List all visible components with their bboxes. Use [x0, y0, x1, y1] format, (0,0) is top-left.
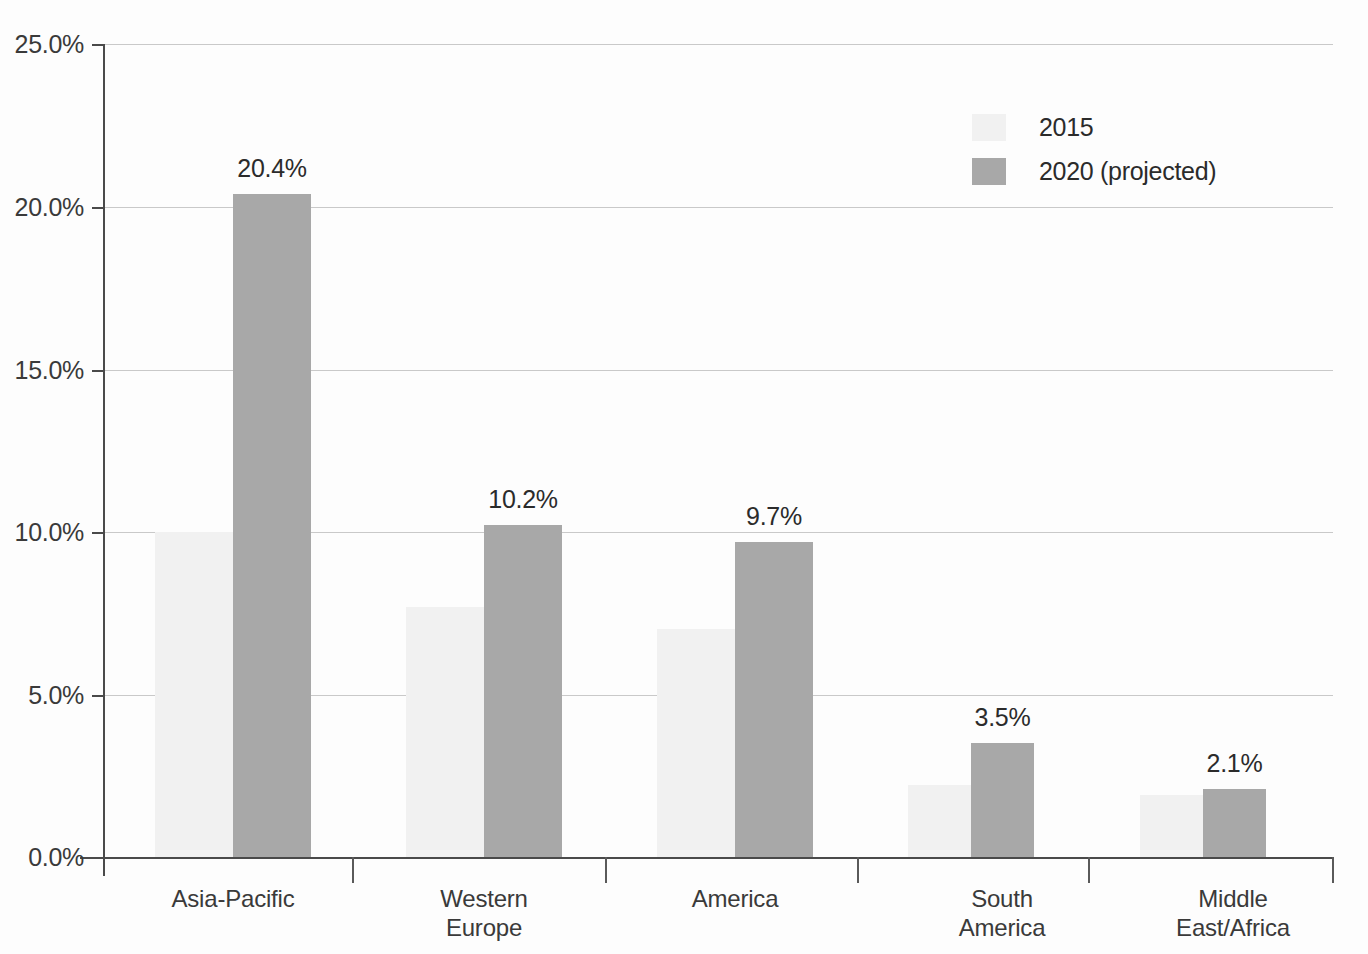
y-tick-0 [92, 857, 103, 859]
x-tick-separator-4 [1088, 857, 1090, 883]
x-axis-baseline [80, 857, 1333, 859]
y-axis-label-0: 0.0% [28, 843, 84, 872]
y-tick-10 [92, 532, 103, 534]
x-axis-category-label-america: America [692, 884, 779, 913]
x-axis-category-label-middle-east-africa: Middle East/Africa [1176, 884, 1290, 943]
bar-value-label-western-europe: 10.2% [488, 485, 557, 514]
x-axis-category-label-western-europe: Western Europe [440, 884, 528, 943]
y-axis-label-5: 5.0% [28, 681, 84, 710]
y-axis-label-15: 15.0% [15, 356, 84, 385]
bar-2020-projected--asia-pacific [233, 194, 311, 857]
bar-2015-south-america [908, 785, 971, 857]
x-axis-category-label-asia-pacific: Asia-Pacific [172, 884, 295, 913]
bar-2020-projected--america [735, 542, 813, 857]
y-axis-line [103, 44, 105, 876]
x-tick-separator-2 [605, 857, 607, 883]
bar-value-label-asia-pacific: 20.4% [237, 154, 306, 183]
legend-item-2015: 2015 [972, 105, 1216, 149]
legend-item-2020: 2020 (projected) [972, 149, 1216, 193]
legend-label-2020: 2020 (projected) [1039, 157, 1216, 186]
y-axis-label-25: 25.0% [15, 30, 84, 59]
y-tick-15 [92, 370, 103, 372]
legend-swatch-icon-2015 [972, 114, 1006, 141]
bar-2020-projected--western-europe [484, 525, 562, 857]
bar-value-label-middle-east-africa: 2.1% [1207, 749, 1263, 778]
y-tick-20 [92, 207, 103, 209]
y-axis-label-20: 20.0% [15, 193, 84, 222]
y-tick-25 [92, 44, 103, 46]
x-axis-category-label-south-america: South America [959, 884, 1046, 943]
bar-value-label-south-america: 3.5% [975, 703, 1031, 732]
bar-2015-middle-east-africa [1140, 795, 1203, 857]
y-tick-5 [92, 695, 103, 697]
legend-swatch-icon-2020 [972, 158, 1006, 185]
bar-2020-projected--south-america [971, 743, 1034, 857]
bar-value-label-america: 9.7% [746, 502, 802, 531]
gridline-25 [103, 44, 1333, 45]
x-tick-separator-3 [857, 857, 859, 883]
legend-label-2015: 2015 [1039, 113, 1093, 142]
y-axis-label-10: 10.0% [15, 518, 84, 547]
bar-chart: 25.0% 20.0% 15.0% 10.0% 5.0% 0.0% 20.4%1… [0, 0, 1368, 954]
bar-2015-asia-pacific [155, 532, 233, 857]
chart-legend: 2015 2020 (projected) [972, 105, 1216, 193]
bar-2020-projected--middle-east-africa [1203, 789, 1266, 857]
x-tick-separator-1 [352, 857, 354, 883]
x-tick-axis-end [1332, 857, 1334, 883]
bar-2015-america [657, 629, 735, 857]
bar-2015-western-europe [406, 607, 484, 857]
